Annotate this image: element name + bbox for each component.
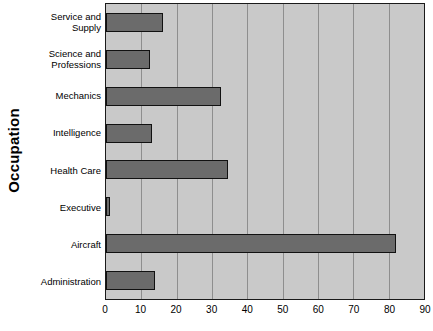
- bar[interactable]: [106, 50, 150, 69]
- bar[interactable]: [106, 160, 228, 179]
- bar-row: [106, 78, 424, 115]
- x-tick-label: 10: [135, 304, 146, 315]
- bar-row: [106, 262, 424, 299]
- x-tick-label: 0: [102, 304, 108, 315]
- bar-chart: Occupation Service and SupplyScience and…: [0, 0, 433, 331]
- x-axis: 0102030405060708090: [105, 302, 425, 324]
- category-label: Executive: [20, 189, 105, 226]
- bar[interactable]: [106, 234, 396, 253]
- bar-row: [106, 152, 424, 189]
- bar[interactable]: [106, 271, 155, 290]
- x-tick-label: 70: [348, 304, 359, 315]
- y-axis-title-text: Occupation: [5, 108, 22, 193]
- x-tick-label: 60: [313, 304, 324, 315]
- x-tick-label: 20: [171, 304, 182, 315]
- category-label: Mechanics: [20, 77, 105, 114]
- category-label: Health Care: [20, 152, 105, 189]
- category-label: Intelligence: [20, 114, 105, 151]
- x-tick-label: 30: [206, 304, 217, 315]
- bar[interactable]: [106, 13, 163, 32]
- category-label: Science and Professions: [20, 40, 105, 77]
- bar-row: [106, 4, 424, 41]
- bar[interactable]: [106, 197, 110, 216]
- bar[interactable]: [106, 124, 152, 143]
- x-tick-label: 50: [277, 304, 288, 315]
- bar-row: [106, 225, 424, 262]
- x-tick-label: 80: [384, 304, 395, 315]
- x-tick-label: 40: [242, 304, 253, 315]
- bar-row: [106, 188, 424, 225]
- category-label: Administration: [20, 263, 105, 300]
- category-label: Aircraft: [20, 226, 105, 263]
- bar-row: [106, 115, 424, 152]
- plot-area: [105, 3, 425, 300]
- bars-layer: [106, 4, 424, 299]
- category-axis-labels: Service and SupplyScience and Profession…: [20, 3, 105, 300]
- category-label: Service and Supply: [20, 3, 105, 40]
- x-tick-label: 90: [419, 304, 430, 315]
- bar[interactable]: [106, 87, 221, 106]
- bar-row: [106, 41, 424, 78]
